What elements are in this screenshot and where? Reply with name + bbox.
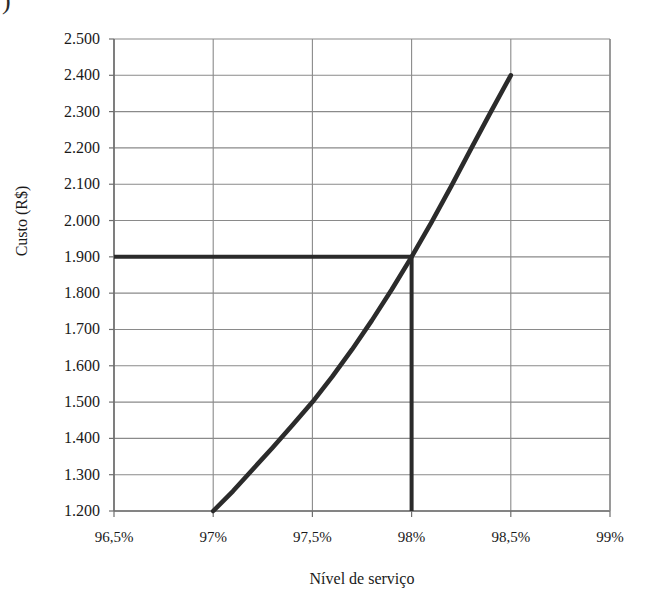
plot-area (0, 0, 650, 611)
axis-frame (114, 39, 610, 511)
tick-marks (109, 39, 610, 517)
vertical-gridlines (114, 39, 610, 511)
horizontal-gridlines (114, 39, 610, 511)
chart-figure: ) Custo (R$) Nível de serviço 1.2001.300… (0, 0, 650, 611)
reference-lines (114, 257, 412, 511)
